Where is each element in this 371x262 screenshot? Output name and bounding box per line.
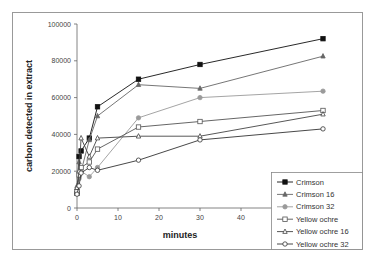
- data-point-marker: [198, 95, 202, 99]
- y-tick-label: 40000: [52, 131, 72, 138]
- data-point-marker: [136, 116, 140, 120]
- legend-label: Crimson 16: [296, 190, 334, 199]
- line-chart: 020000400006000080000100000010203040 car…: [0, 0, 371, 262]
- legend: CrimsonCrimson 16Crimson 32Yellow ochreY…: [272, 173, 363, 250]
- data-point-marker: [198, 138, 202, 142]
- legend-label: Crimson: [296, 178, 324, 187]
- data-point-marker: [79, 171, 83, 175]
- data-point-marker: [321, 89, 325, 93]
- data-point-marker: [136, 125, 140, 129]
- data-point-marker: [198, 119, 202, 123]
- legend-marker-icon: [283, 205, 287, 209]
- legend-label: Yellow ochre 16: [296, 227, 349, 236]
- data-point-marker: [95, 105, 99, 109]
- data-point-marker: [136, 77, 140, 81]
- data-point-marker: [198, 62, 202, 66]
- x-tick-label: 20: [155, 214, 163, 221]
- data-point-marker: [77, 154, 81, 158]
- legend-label: Yellow ochre: [296, 215, 338, 224]
- data-point-marker: [95, 168, 99, 172]
- data-point-marker: [321, 127, 325, 131]
- x-tick-label: 40: [237, 214, 245, 221]
- data-point-marker: [87, 165, 91, 169]
- y-tick-label: 60000: [52, 94, 72, 101]
- data-point-marker: [95, 147, 99, 151]
- y-tick-label: 20000: [52, 168, 72, 175]
- data-point-marker: [87, 175, 91, 179]
- data-point-marker: [79, 149, 83, 153]
- legend-label: Yellow ochre 32: [296, 240, 349, 249]
- data-point-marker: [136, 158, 140, 162]
- data-point-marker: [321, 37, 325, 41]
- data-point-marker: [77, 184, 81, 188]
- x-tick-label: 30: [196, 214, 204, 221]
- data-point-marker: [75, 192, 79, 196]
- x-axis-title: minutes: [163, 230, 198, 240]
- data-point-marker: [87, 160, 91, 164]
- y-axis-title: carbon detected in extract: [24, 60, 34, 172]
- legend-marker-icon: [283, 180, 287, 184]
- legend-marker-icon: [283, 242, 287, 246]
- x-tick-label: 0: [75, 214, 79, 221]
- legend-marker-icon: [283, 217, 287, 221]
- y-tick-label: 100000: [48, 21, 71, 28]
- y-tick-label: 0: [67, 205, 71, 212]
- y-tick-label: 80000: [52, 57, 72, 64]
- legend-label: Crimson 32: [296, 202, 334, 211]
- x-tick-label: 10: [114, 214, 122, 221]
